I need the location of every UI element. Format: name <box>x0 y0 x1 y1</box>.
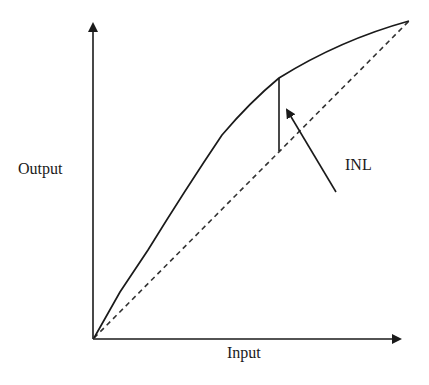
inl-diagram <box>0 0 429 385</box>
inl-pointer-arrow <box>287 110 336 192</box>
ideal-transfer-line <box>94 21 409 338</box>
inl-label: INL <box>345 156 372 174</box>
y-axis-label: Output <box>18 160 62 178</box>
x-axis-label: Input <box>227 344 261 362</box>
